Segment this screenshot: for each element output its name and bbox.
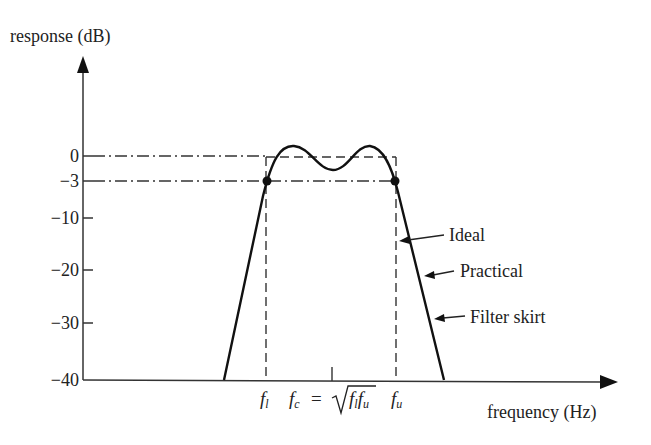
filter-skirt-arrow-icon <box>434 314 445 322</box>
y-tick-label-minus20: −20 <box>51 260 79 280</box>
y-tick-label-0: 0 <box>70 146 79 166</box>
ideal-annotation: Ideal <box>399 225 485 245</box>
y-tick-labels: 0 −3 −10 −20 −30 −40 <box>51 146 79 390</box>
x-axis-label: frequency (Hz) <box>487 402 596 423</box>
upper-cutoff-point <box>391 177 400 186</box>
frequency-markers: fl fc = flfu fu <box>260 386 402 413</box>
sqrt-product: flfu <box>349 388 369 411</box>
y-tick-label-minus3: −3 <box>60 171 79 191</box>
fu-label: fu <box>391 388 402 411</box>
x-axis <box>83 375 618 389</box>
fl-label: fl <box>260 388 269 411</box>
filter-response-diagram: response (dB) frequency (Hz) 0 −3 −10 −2… <box>0 0 651 445</box>
x-axis-arrowhead-icon <box>600 375 618 389</box>
practical-arrow-icon <box>424 271 435 279</box>
fc-label: fc <box>289 388 300 411</box>
filter-skirt-label: Filter skirt <box>470 307 546 327</box>
practical-label: Practical <box>460 261 523 281</box>
y-ticks <box>83 156 93 323</box>
filter-skirt-annotation: Filter skirt <box>434 307 546 327</box>
ideal-response <box>266 157 396 380</box>
y-axis-arrowhead-icon <box>77 56 89 73</box>
ideal-label: Ideal <box>449 225 485 245</box>
lower-cutoff-point <box>263 177 272 186</box>
y-tick-label-minus30: −30 <box>51 313 79 333</box>
y-tick-label-minus40: −40 <box>51 370 79 390</box>
y-axis-label: response (dB) <box>10 26 110 47</box>
practical-annotation: Practical <box>424 261 523 281</box>
ideal-arrow-icon <box>399 236 410 244</box>
y-tick-label-minus10: −10 <box>51 208 79 228</box>
equals-sign: = <box>311 388 322 409</box>
